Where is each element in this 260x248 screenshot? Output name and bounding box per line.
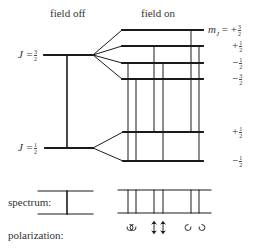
polarization-label: polarization: xyxy=(8,230,64,241)
spectrum-label: spectrum: xyxy=(8,197,51,208)
label-j-1-2: J =12 xyxy=(18,142,37,155)
label-j-3-2: J =32 xyxy=(18,49,37,62)
label-mj-plus-1-2: +12 xyxy=(232,40,242,53)
label-mj-lower-plus-1-2: +12 xyxy=(232,126,242,139)
pi-polarization-icon xyxy=(152,222,165,234)
sigma-polarization-left-icon xyxy=(127,225,136,231)
sigma-polarization-right-icon xyxy=(185,225,205,231)
label-mj-minus-1-2: −12 xyxy=(232,57,242,70)
label-mj-lower-minus-1-2: −12 xyxy=(232,155,242,168)
label-mj-minus-3-2: −32 xyxy=(232,73,242,86)
label-mj-plus-3-2: mJ = +32 xyxy=(208,24,241,38)
